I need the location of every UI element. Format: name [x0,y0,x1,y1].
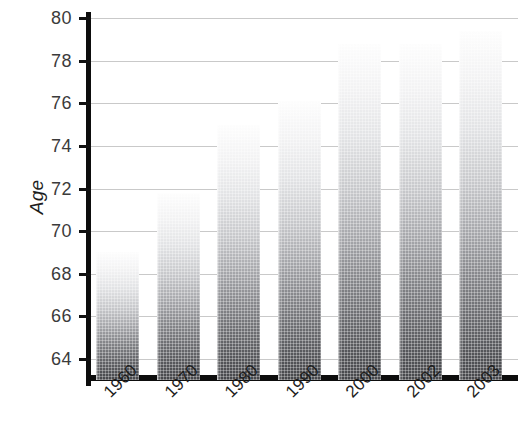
gridline [90,18,518,19]
bar-highlight [459,31,462,380]
y-axis-tick-label: 68 [26,263,72,284]
y-axis-tick-label: 66 [26,306,72,327]
y-axis-tick-label: 78 [26,50,72,71]
y-axis-tick [79,17,91,20]
y-axis-tick-label: 64 [26,348,72,369]
bar [217,125,260,380]
bar-highlight [278,101,281,380]
y-axis-tick-labels: 646668707274767880 [26,0,72,433]
bar-highlight [157,193,160,380]
bar-highlight [217,125,220,380]
bar-highlight [96,252,99,380]
bar [96,252,139,380]
y-axis-tick [79,188,91,191]
bar [157,193,200,380]
bar [338,44,381,380]
bar [399,44,442,380]
bar-chart: Age 646668707274767880 19601970198019902… [0,0,518,433]
y-axis-tick-label: 74 [26,136,72,157]
y-axis-tick [79,60,91,63]
y-axis-tick [79,315,91,318]
y-axis-tick-label: 72 [26,178,72,199]
y-axis-tick [79,273,91,276]
y-axis-tick-label: 80 [26,8,72,29]
plot-area [90,12,518,380]
bar [459,31,502,380]
gridline [90,61,518,62]
y-axis-tick-label: 76 [26,93,72,114]
y-axis-tick [79,102,91,105]
bar [278,101,321,380]
y-axis-tick-label: 70 [26,221,72,242]
bar-highlight [338,44,341,380]
y-axis-tick [79,230,91,233]
y-axis-tick [79,358,91,361]
y-axis-tick [79,145,91,148]
bar-highlight [399,44,402,380]
